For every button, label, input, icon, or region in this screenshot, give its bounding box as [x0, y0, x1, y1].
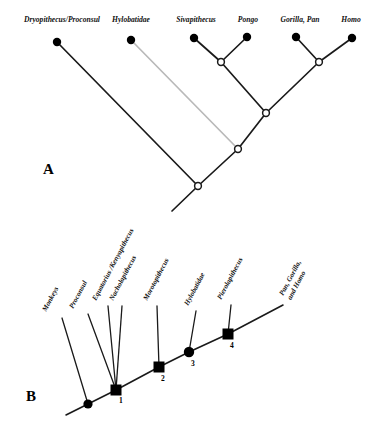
node-b-3: [184, 347, 194, 357]
tip-node-hylobatidae: [127, 36, 135, 44]
tip-label-homo: Homo: [340, 15, 361, 24]
tip-node-homo: [348, 34, 356, 42]
panel-a-letter: A: [43, 161, 54, 177]
internal-node-great-ape: [263, 110, 270, 117]
node-b-monkey-divergence: [83, 399, 92, 408]
tip-node-pongo: [243, 33, 251, 41]
panel-b-letter: B: [26, 388, 36, 404]
phylogenetic-figure: A Dryopithecus/Proconsul H: [0, 0, 375, 429]
tip-label-sivapithecus: Sivapithecus: [176, 15, 216, 24]
internal-node-root: [195, 183, 202, 190]
node-b-2: [154, 362, 165, 373]
tip-node-dryopithecus-proconsul: [53, 38, 61, 46]
tip-label-pongo: Pongo: [238, 15, 258, 24]
internal-node-sivapithecus-pongo: [218, 59, 225, 66]
node-number-2: 2: [161, 374, 165, 383]
tip-label-hylobatidae: Hylobatidae: [111, 15, 151, 24]
tip-label-gorilla-pan: Gorilla, Pan: [281, 15, 320, 24]
node-b-1: [111, 385, 122, 396]
node-number-3: 3: [191, 359, 195, 368]
internal-node-hominoid: [235, 146, 242, 153]
internal-node-gorilla-pan-homo: [316, 59, 323, 66]
tip-node-gorilla-pan: [292, 33, 300, 41]
node-b-4: [223, 329, 234, 340]
node-number-1: 1: [119, 396, 123, 405]
node-number-4: 4: [230, 341, 234, 350]
tip-node-sivapithecus: [190, 34, 198, 42]
tip-label-dryopithecus-proconsul: Dryopithecus/Proconsul: [23, 15, 101, 24]
